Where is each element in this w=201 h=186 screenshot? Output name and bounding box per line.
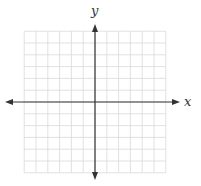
- y-axis-down-arrow-icon: [92, 172, 98, 180]
- coordinate-plane: x y: [0, 0, 201, 186]
- y-axis-label: y: [90, 3, 99, 18]
- x-axis-label: x: [184, 94, 192, 109]
- x-axis-right-arrow-icon: [172, 99, 180, 105]
- x-axis-left-arrow-icon: [5, 99, 13, 105]
- y-axis-up-arrow-icon: [92, 24, 98, 32]
